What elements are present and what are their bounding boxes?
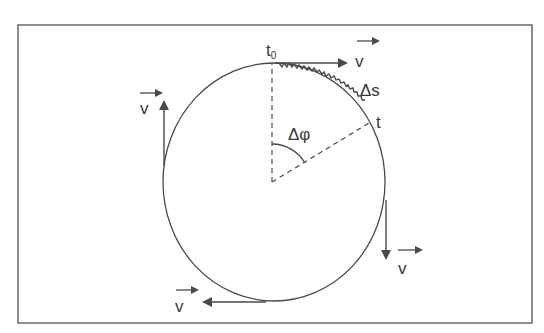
- circular-motion-diagram: t0 t Δs Δφ v v v v: [0, 0, 544, 333]
- label-delta-s: Δs: [360, 81, 380, 100]
- label-delta-phi: Δφ: [288, 125, 310, 144]
- label-t0: t0: [266, 41, 277, 61]
- label-v-right: v: [398, 259, 407, 278]
- angle-arc: [272, 144, 305, 163]
- label-v-top: v: [355, 52, 364, 71]
- diagram-frame: [18, 25, 532, 323]
- arc-length-zigzag: [279, 63, 365, 100]
- circular-path: [163, 63, 385, 301]
- radius-t-dashed: [272, 123, 369, 182]
- label-v-bottom: v: [175, 297, 184, 316]
- label-v-left: v: [140, 99, 149, 118]
- label-t: t: [376, 113, 381, 132]
